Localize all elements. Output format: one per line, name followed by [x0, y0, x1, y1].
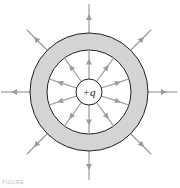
field-line	[131, 134, 142, 145]
figure-caption: FIGURE	[2, 179, 24, 185]
field-diagram: +q	[0, 0, 180, 188]
field-line	[36, 39, 47, 50]
charge-label: +q	[83, 86, 96, 98]
field-line	[142, 145, 151, 154]
field-line	[142, 30, 151, 39]
field-line	[27, 145, 36, 154]
field-line	[131, 39, 142, 50]
field-line	[36, 134, 47, 145]
field-line	[27, 30, 36, 39]
